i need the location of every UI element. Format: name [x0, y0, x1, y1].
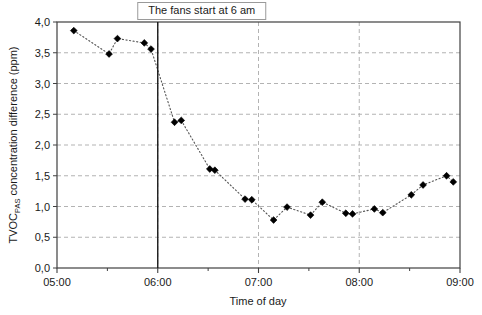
- chart-container: 0,00,51,01,52,02,53,03,54,0 05:0006:0007…: [0, 0, 482, 315]
- x-tick-label: 07:00: [245, 276, 273, 288]
- annotation-label-text: The fans start at 6 am: [148, 4, 255, 16]
- x-tick-label: 05:00: [43, 276, 71, 288]
- x-axis-title: Time of day: [229, 295, 287, 307]
- y-tick-label: 4,0: [35, 16, 50, 28]
- tvoc-time-series-chart: 0,00,51,01,52,02,53,03,54,0 05:0006:0007…: [0, 0, 482, 315]
- y-tick-label: 0,0: [35, 262, 50, 274]
- y-tick-label: 3,5: [35, 47, 50, 59]
- y-tick-label: 2,5: [35, 108, 50, 120]
- y-tick-label: 3,0: [35, 78, 50, 90]
- y-tick-label: 1,5: [35, 170, 50, 182]
- x-axis-title-text: Time of day: [229, 295, 287, 307]
- x-tick-label: 08:00: [345, 276, 373, 288]
- y-tick-label: 2,0: [35, 139, 50, 151]
- x-tick-label: 06:00: [144, 276, 172, 288]
- y-tick-label: 0,5: [35, 231, 50, 243]
- y-tick-label: 1,0: [35, 201, 50, 213]
- y-axis-tick-labels: 0,00,51,01,52,02,53,03,54,0: [35, 16, 50, 274]
- x-tick-label: 09:00: [446, 276, 474, 288]
